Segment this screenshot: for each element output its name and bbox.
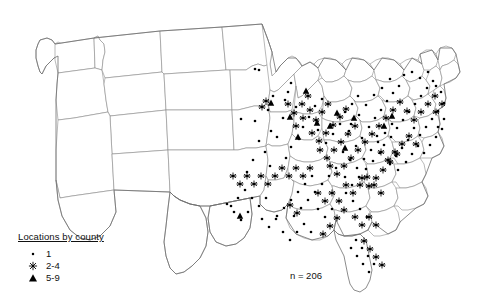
data-marker bbox=[282, 117, 285, 120]
data-marker bbox=[361, 238, 367, 244]
data-marker bbox=[311, 175, 314, 178]
data-marker bbox=[426, 87, 429, 90]
data-marker bbox=[290, 199, 293, 202]
data-marker bbox=[411, 153, 414, 156]
data-marker bbox=[377, 141, 380, 144]
data-marker bbox=[272, 95, 275, 98]
data-marker bbox=[357, 95, 360, 98]
data-marker bbox=[372, 160, 375, 163]
data-marker bbox=[258, 140, 261, 143]
data-marker bbox=[403, 74, 406, 77]
data-marker bbox=[265, 197, 268, 200]
data-marker bbox=[384, 132, 387, 135]
data-marker bbox=[332, 133, 335, 136]
data-marker bbox=[289, 239, 292, 242]
data-marker bbox=[355, 145, 358, 148]
legend-title: Locations by county bbox=[18, 232, 104, 242]
data-marker bbox=[356, 255, 359, 258]
legend-label-3: 5-9 bbox=[46, 273, 60, 283]
data-marker bbox=[295, 106, 298, 109]
data-marker bbox=[368, 126, 371, 129]
data-marker bbox=[423, 152, 426, 155]
data-marker bbox=[362, 263, 365, 266]
data-marker bbox=[398, 85, 401, 88]
data-marker bbox=[425, 126, 428, 129]
data-marker bbox=[264, 151, 267, 154]
data-marker bbox=[296, 231, 299, 234]
data-marker bbox=[390, 136, 393, 139]
data-marker bbox=[321, 98, 324, 101]
data-marker bbox=[304, 183, 307, 186]
data-marker bbox=[345, 192, 348, 195]
data-marker bbox=[396, 127, 399, 130]
data-marker bbox=[226, 203, 229, 206]
legend: Locations by county 1 2-4 5-9 bbox=[18, 232, 104, 284]
data-marker bbox=[317, 129, 320, 132]
data-marker bbox=[370, 149, 373, 152]
data-marker bbox=[368, 271, 371, 274]
data-marker bbox=[254, 68, 257, 71]
data-marker bbox=[285, 157, 288, 160]
data-marker bbox=[419, 134, 422, 137]
data-marker bbox=[383, 144, 386, 147]
data-marker bbox=[435, 85, 438, 88]
data-marker bbox=[321, 183, 324, 186]
data-marker bbox=[355, 239, 358, 242]
data-marker bbox=[432, 80, 435, 83]
data-marker bbox=[293, 215, 296, 218]
data-marker bbox=[420, 95, 423, 98]
data-marker bbox=[268, 226, 271, 229]
data-marker bbox=[352, 200, 355, 203]
data-marker bbox=[380, 109, 383, 112]
data-marker bbox=[397, 169, 400, 172]
data-marker bbox=[310, 231, 313, 234]
legend-item-3: 5-9 bbox=[24, 272, 104, 284]
data-marker bbox=[317, 208, 320, 211]
data-marker bbox=[252, 159, 255, 162]
data-marker bbox=[361, 247, 364, 250]
legend-label-1: 1 bbox=[46, 249, 51, 259]
data-marker bbox=[429, 144, 432, 147]
data-marker bbox=[283, 207, 286, 210]
data-marker bbox=[308, 116, 311, 119]
data-marker bbox=[441, 128, 444, 131]
data-marker bbox=[365, 104, 368, 107]
data-marker bbox=[251, 197, 254, 200]
data-marker bbox=[342, 151, 345, 154]
data-marker bbox=[237, 197, 240, 200]
data-marker bbox=[307, 199, 310, 202]
data-marker bbox=[276, 215, 279, 218]
data-marker bbox=[287, 91, 290, 94]
data-marker bbox=[325, 142, 328, 145]
data-marker bbox=[275, 218, 278, 221]
data-marker bbox=[435, 136, 438, 139]
data-marker bbox=[381, 87, 384, 90]
data-marker bbox=[443, 118, 446, 121]
data-marker bbox=[324, 216, 327, 219]
legend-marker-dot-icon bbox=[24, 248, 42, 260]
data-marker bbox=[269, 165, 272, 168]
data-marker bbox=[361, 137, 364, 140]
data-marker bbox=[411, 71, 414, 74]
data-marker bbox=[402, 119, 405, 122]
data-marker bbox=[240, 118, 243, 121]
data-marker bbox=[427, 71, 430, 74]
legend-item-2: 2-4 bbox=[24, 260, 104, 272]
data-marker bbox=[303, 223, 306, 226]
data-marker bbox=[267, 109, 270, 112]
data-marker bbox=[373, 263, 376, 266]
data-marker bbox=[339, 123, 342, 126]
data-marker bbox=[367, 255, 370, 258]
data-marker bbox=[344, 176, 347, 179]
data-marker bbox=[230, 205, 233, 208]
data-marker bbox=[284, 99, 287, 102]
data-marker bbox=[247, 211, 250, 214]
data-marker bbox=[373, 254, 379, 260]
data-marker bbox=[258, 69, 261, 72]
data-marker bbox=[386, 100, 389, 103]
data-marker bbox=[431, 118, 434, 121]
data-marker bbox=[314, 105, 317, 108]
data-marker bbox=[376, 135, 379, 138]
data-marker bbox=[359, 208, 362, 211]
data-marker bbox=[240, 219, 243, 222]
